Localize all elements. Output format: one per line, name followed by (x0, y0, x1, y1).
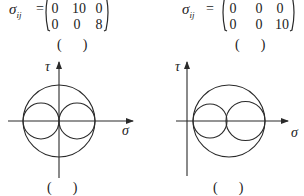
tau-axis-label: τ (45, 59, 50, 75)
mohr-diagram-2 (176, 62, 288, 176)
sigma-axis-label: σ (291, 125, 298, 141)
sigma-axis-label: σ (122, 123, 129, 139)
mohr-diagrams (0, 0, 304, 196)
answer-blank: ( ) (47, 180, 77, 196)
answer-blank: ( ) (213, 180, 243, 196)
mohr-diagram-1 (8, 62, 133, 178)
tau-axis-label: τ (175, 59, 180, 75)
